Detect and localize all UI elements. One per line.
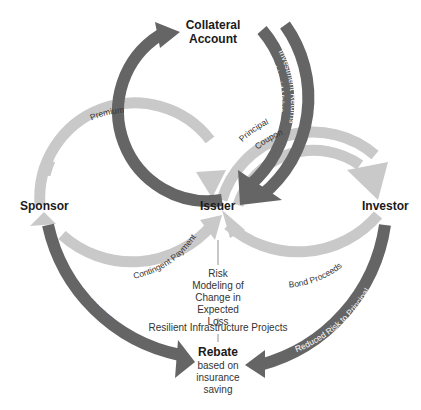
bond-proceeds-arrow xyxy=(228,215,378,252)
bond-proceeds-label: Bond Proceeds xyxy=(288,260,343,289)
sponsor-node: Sponsor xyxy=(20,199,69,213)
resilient-projects-note: Resilient Infrastructure Projects xyxy=(148,322,288,334)
investor-arrowhead xyxy=(347,162,388,200)
par-value-label: Par Value xyxy=(162,148,194,180)
svg-text:Bond Proceeds: Bond Proceeds xyxy=(288,260,343,289)
rebate-node: Rebate xyxy=(198,345,238,359)
investor-node: Investor xyxy=(362,199,409,213)
risk-modeling-note: Risk Modeling of Change in Expected Loss xyxy=(188,268,248,328)
rebate-subtitle: based on insurance saving xyxy=(190,360,246,396)
collateral-account-node: Collateral Account xyxy=(178,18,248,46)
issuer-node: Issuer xyxy=(200,199,235,213)
sponsor-arrowhead xyxy=(30,212,56,226)
rebate-right-arrowhead xyxy=(245,350,265,378)
svg-text:Par Value: Par Value xyxy=(162,148,194,180)
collateral-arrowhead xyxy=(155,22,180,48)
sponsor-up-stub xyxy=(45,160,50,175)
